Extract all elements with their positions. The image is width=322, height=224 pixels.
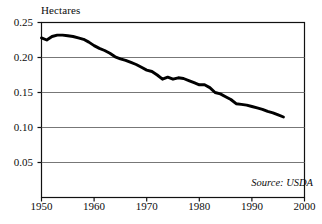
x-tick-label: 1950 [19,201,65,212]
x-tick-label: 1960 [71,201,117,212]
chart-figure: Hectares 0.050.100.150.200.25 1950196019… [0,0,322,224]
x-tick-label: 1990 [229,201,275,212]
y-tick-label: 0.15 [0,87,33,98]
y-tick-label: 0.25 [0,17,33,28]
x-tick-label: 2000 [282,201,322,212]
y-tick-label: 0.20 [0,52,33,63]
x-tick-label: 1970 [124,201,170,212]
y-tick-label: 0.05 [0,157,33,168]
chart-plot-area [0,0,322,224]
y-tick-label: 0.10 [0,122,33,133]
source-note: Source: USDA [251,177,313,188]
x-tick-label: 1980 [176,201,222,212]
